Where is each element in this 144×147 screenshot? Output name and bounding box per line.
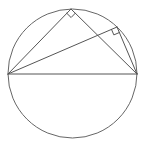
chord-AC <box>8 9 71 74</box>
chord-CB <box>71 9 137 74</box>
inscribed-right-triangles-diagram <box>0 0 144 147</box>
segments <box>8 9 137 74</box>
right-angle-at-C <box>67 13 75 17</box>
right-angle-markers <box>67 13 120 35</box>
chord-AD <box>8 27 117 74</box>
chord-DB <box>117 27 137 74</box>
